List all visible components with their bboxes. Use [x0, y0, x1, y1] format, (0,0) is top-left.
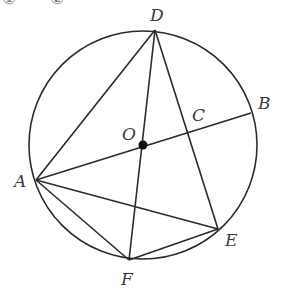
label-point-d: D: [149, 5, 164, 25]
cropped-marker-1: ①: [2, 0, 16, 8]
geometry-diagram: ① ② ODBCAFE: [0, 0, 282, 293]
label-point-a: A: [12, 171, 26, 191]
cropped-marker-2: ②: [50, 0, 64, 8]
label-point-c: C: [192, 105, 205, 125]
label-point-b: B: [257, 93, 271, 113]
label-point-f: F: [120, 269, 134, 289]
segment-da: [36, 30, 155, 180]
center-point-o: [139, 141, 148, 150]
segment-de: [155, 30, 218, 229]
label-point-o: O: [122, 124, 136, 144]
label-point-e: E: [224, 230, 238, 250]
